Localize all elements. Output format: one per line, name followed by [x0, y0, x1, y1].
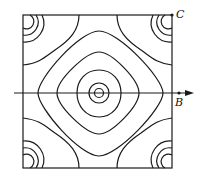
contour-diagram: [0, 0, 204, 180]
point-b: [177, 91, 180, 94]
axis-arrowhead-icon: [185, 90, 194, 96]
contour-edge-br: [117, 118, 172, 168]
contour-edge-tl: [23, 15, 79, 65]
contour-edge-tr: [117, 15, 172, 65]
point-c: [170, 13, 173, 16]
square-boundary: [23, 15, 172, 168]
label-b: B: [175, 97, 183, 108]
label-c: C: [176, 9, 184, 20]
contour-edge-bl: [23, 118, 79, 168]
